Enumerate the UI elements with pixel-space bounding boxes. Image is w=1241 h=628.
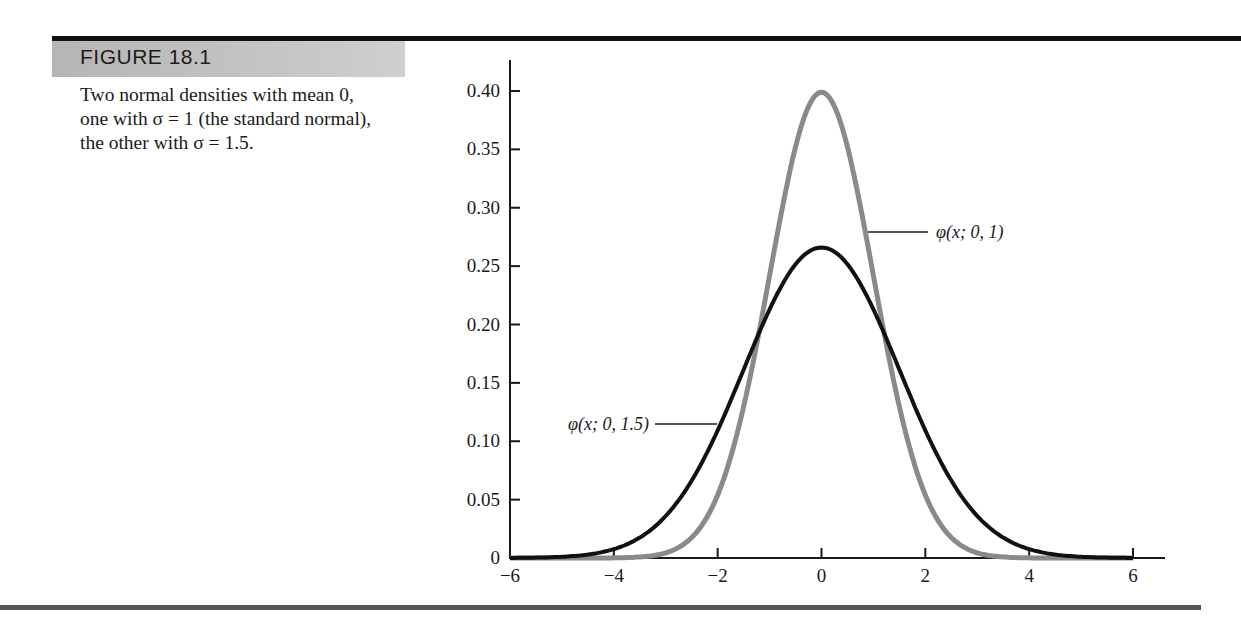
x-tick-label: −2 (708, 565, 728, 586)
y-tick-label: 0.30 (467, 197, 500, 218)
x-tick-label: 0 (817, 565, 827, 586)
y-tick-label: 0.20 (467, 314, 500, 335)
y-tick-label: 0.10 (467, 430, 500, 451)
axis-ticks: 00.050.100.150.200.250.300.350.40−6−4−20… (467, 80, 1138, 586)
x-tick-label: −4 (604, 565, 625, 586)
normal-density-chart: 00.050.100.150.200.250.300.350.40−6−4−20… (0, 0, 1241, 628)
curve-annotations: φ(x; 0, 1)φ(x; 0, 1.5) (568, 222, 1003, 435)
label-standard-normal: φ(x; 0, 1) (936, 222, 1003, 243)
label-sigma-1-5: φ(x; 0, 1.5) (568, 414, 649, 435)
x-tick-label: 2 (921, 565, 931, 586)
x-tick-label: −6 (500, 565, 520, 586)
y-tick-label: 0 (491, 547, 501, 568)
y-tick-label: 0.15 (467, 372, 500, 393)
density-curve (510, 248, 1133, 558)
density-curves (510, 92, 1133, 558)
axes (509, 60, 1165, 559)
y-tick-label: 0.25 (467, 255, 500, 276)
y-tick-label: 0.40 (467, 80, 500, 101)
x-tick-label: 6 (1128, 565, 1138, 586)
x-tick-label: 4 (1024, 565, 1034, 586)
y-tick-label: 0.05 (467, 489, 500, 510)
density-curve (510, 92, 1133, 558)
y-tick-label: 0.35 (467, 138, 500, 159)
bottom-rule (0, 605, 1201, 610)
